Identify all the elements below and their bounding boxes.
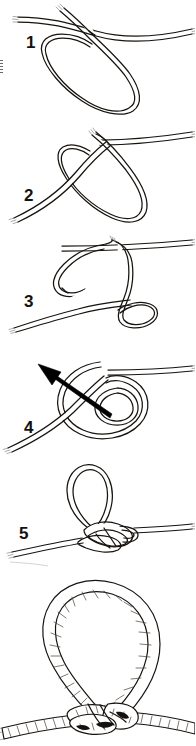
step-panel-1: 1 bbox=[0, 0, 195, 126]
step-number-2: 2 bbox=[24, 187, 33, 204]
rope-working-right-5 bbox=[134, 524, 195, 533]
rope-standing-left-final bbox=[0, 715, 76, 740]
knot-diagram-page: 1 bbox=[0, 0, 195, 746]
step-5-illustration bbox=[0, 456, 195, 566]
rope-standing-part-3 bbox=[62, 240, 195, 251]
step-4-illustration bbox=[0, 346, 195, 464]
rope-working-end-2 bbox=[9, 142, 110, 224]
step-number-4: 4 bbox=[24, 419, 33, 436]
finished-bowline-illustration bbox=[0, 560, 195, 746]
step-2-illustration bbox=[0, 118, 195, 230]
pull-direction-arrow bbox=[38, 364, 112, 418]
step-1-illustration bbox=[0, 0, 195, 126]
finished-knot-panel bbox=[0, 560, 195, 746]
step-panel-2: 2 bbox=[0, 118, 195, 230]
step-panel-3: 3 bbox=[0, 228, 195, 344]
step-number-5: 5 bbox=[19, 525, 28, 542]
rope-standing-part-4 bbox=[108, 366, 195, 375]
scan-artifact-line bbox=[10, 562, 48, 566]
rope-standing-part-2 bbox=[100, 132, 195, 146]
rope-standing-part-1 bbox=[13, 16, 196, 41]
rope-working-end-4 bbox=[3, 376, 108, 454]
finished-knot-bundle bbox=[67, 703, 138, 734]
crossing-points-3 bbox=[62, 240, 112, 293]
rope-fixed-loop bbox=[43, 581, 160, 714]
rope-loop-2 bbox=[58, 128, 147, 222]
step-number-1: 1 bbox=[26, 34, 35, 51]
step-panel-5: 5 bbox=[0, 456, 195, 566]
step-panel-4: 4 bbox=[0, 346, 195, 464]
rope-left-bight-3 bbox=[53, 244, 106, 297]
step-3-illustration bbox=[0, 228, 195, 344]
step-number-3: 3 bbox=[24, 293, 33, 310]
